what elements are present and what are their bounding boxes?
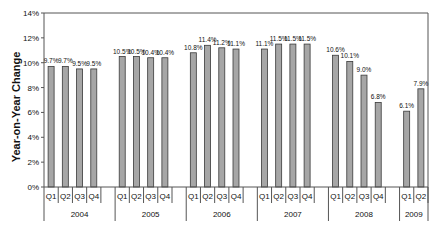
data-label: 6.1% [399,102,414,109]
data-label: 9.5% [72,60,87,67]
quarter-label: Q2 [344,192,355,201]
year-label: 2007 [284,210,302,219]
quarter-label: Q2 [202,192,213,201]
bar [77,69,83,187]
year-label: 2004 [71,210,89,219]
quarter-label: Q1 [401,192,412,201]
bar [404,111,410,187]
year-label: 2009 [405,210,423,219]
bar [133,57,139,188]
data-label: 9.7% [58,57,73,64]
quarter-label: Q3 [359,192,370,201]
bar [361,75,367,187]
data-label: 9.7% [44,57,59,64]
quarter-label: Q1 [330,192,341,201]
data-label: 10.4% [156,49,175,56]
y-tick-label: 0% [27,183,39,192]
data-label: 7.9% [413,80,428,87]
quarter-label: Q2 [273,192,284,201]
bar [290,44,296,187]
bar [276,44,282,187]
bar [62,66,68,187]
bar [261,49,267,187]
bar [375,102,381,187]
bar [162,58,168,187]
data-label: 9.0% [357,66,372,73]
year-label: 2008 [355,210,373,219]
quarter-label: Q3 [74,192,85,201]
quarter-label: Q3 [145,192,156,201]
data-label: 6.8% [371,93,386,100]
bar-chart: 0%2%4%6%8%10%12%14% 9.7%9.7%9.5%9.5%10.5… [0,0,438,233]
quarter-label: Q3 [216,192,227,201]
data-label: 11.1% [227,40,245,47]
bar [418,89,424,187]
quarter-label: Q3 [288,192,299,201]
bar [91,69,97,187]
bar [148,58,154,187]
quarter-label: Q1 [117,192,128,201]
quarter-label: Q2 [60,192,71,201]
bar [304,44,310,187]
bars: 9.7%9.7%9.5%9.5%10.5%10.5%10.4%10.4%10.8… [44,35,429,187]
y-tick-label: 10% [23,59,39,68]
year-label: 2005 [142,210,160,219]
quarter-label: Q2 [131,192,142,201]
quarter-label: Q2 [416,192,427,201]
bar [333,55,339,187]
data-label: 9.5% [86,60,101,67]
quarter-label: Q4 [88,192,99,201]
y-axis: 0%2%4%6%8%10%12%14% [23,9,44,192]
y-tick-label: 14% [23,9,39,18]
y-tick-label: 12% [23,34,39,43]
bar [347,61,353,187]
x-axis: Q1Q2Q3Q42004Q1Q2Q3Q42005Q1Q2Q3Q42006Q1Q2… [44,187,428,221]
bar [48,66,54,187]
quarter-label: Q1 [259,192,270,201]
quarter-label: Q4 [302,192,313,201]
data-label: 11.5% [298,35,316,42]
quarter-label: Q1 [188,192,199,201]
quarter-label: Q4 [373,192,384,201]
y-tick-label: 6% [27,108,39,117]
quarter-label: Q1 [46,192,57,201]
bar [190,53,196,187]
year-label: 2006 [213,210,231,219]
y-tick-label: 2% [27,158,39,167]
y-tick-label: 4% [27,133,39,142]
data-label: 10.1% [341,52,360,59]
bar [119,57,125,188]
y-tick-label: 8% [27,84,39,93]
data-label: 10.8% [184,44,203,51]
bar [205,45,211,187]
bar [233,49,239,187]
quarter-label: Q4 [160,192,171,201]
quarter-label: Q4 [231,192,242,201]
bar [219,48,225,187]
